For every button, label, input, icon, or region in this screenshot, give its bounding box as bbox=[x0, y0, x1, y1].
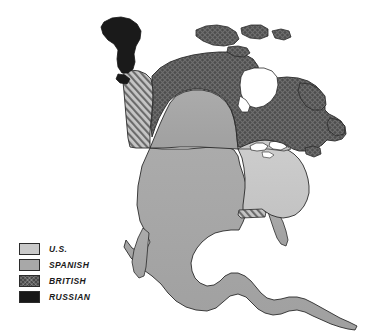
legend-label-us: U.S. bbox=[49, 245, 67, 254]
legend-swatch-russian bbox=[19, 291, 40, 303]
legend-label-british: BRITISH bbox=[49, 277, 86, 286]
legend-swatch-british bbox=[19, 275, 40, 287]
legend-swatch-spanish bbox=[19, 259, 40, 271]
map-legend: U.S. SPANISH BRITISH RUSSIAN bbox=[19, 241, 139, 305]
legend-item-spanish: SPANISH bbox=[19, 257, 139, 273]
legend-item-british: BRITISH bbox=[19, 273, 139, 289]
legend-item-us: U.S. bbox=[19, 241, 139, 257]
map-region-west-florida-disputed bbox=[238, 209, 266, 218]
legend-item-russian: RUSSIAN bbox=[19, 289, 139, 305]
legend-swatch-us bbox=[19, 243, 40, 255]
legend-label-spanish: SPANISH bbox=[49, 261, 89, 270]
map-figure: U.S. SPANISH BRITISH RUSSIAN bbox=[0, 0, 389, 334]
legend-label-russian: RUSSIAN bbox=[49, 293, 90, 302]
